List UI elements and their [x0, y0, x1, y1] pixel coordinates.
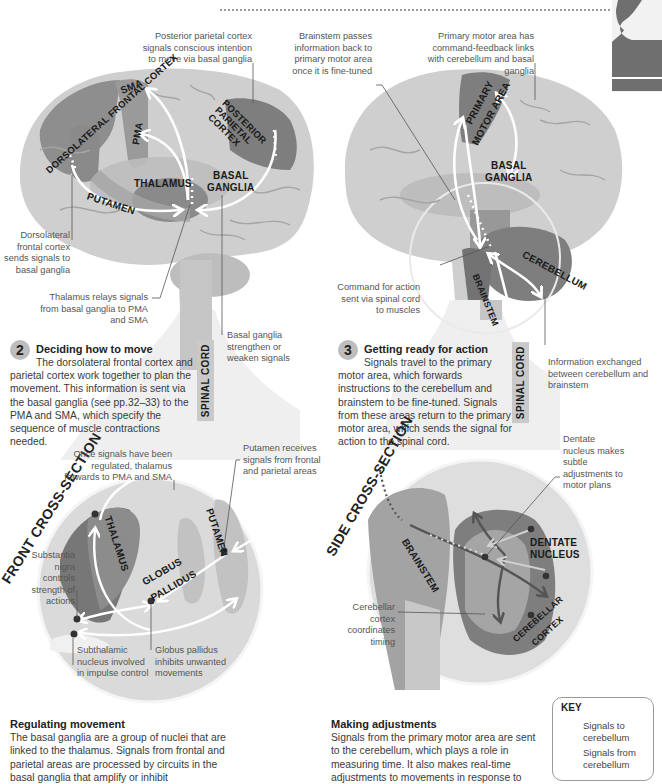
annotation-info-exchanged: Information exchanged between cerebellum… [548, 357, 653, 392]
step-2-number: 2 [10, 340, 30, 360]
label-basal-ganglia-1: BASAL [213, 170, 248, 181]
step-3-block: 3Getting ready for action Signals travel… [338, 340, 516, 448]
label-basal-ganglia-2: GANGLIA [207, 182, 255, 193]
label-dentate-nucleus-2: NUCLEUS [530, 549, 580, 560]
legend-key: KEY Signals to cerebellum Signals from c… [552, 697, 654, 781]
making-adjustments-caption: Making adjustments Signals from the prim… [331, 718, 541, 784]
step-2-body: The dorsolateral frontal cortex and pari… [10, 356, 195, 448]
annotation-once-signals: Once signals have been regulated, thalam… [62, 449, 172, 484]
side-cross-section-illustration [368, 460, 592, 690]
annotation-posterior-parietal: Posterior parietal cortex signals consci… [134, 31, 252, 66]
legend-item-signals-from: Signals from cerebellum [583, 747, 649, 770]
annotation-globus-inhibits: Globus pallidus inhibits unwanted moveme… [155, 645, 227, 680]
label-basal-ganglia-right-1: BASAL [491, 160, 526, 171]
regulating-movement-title: Regulating movement [10, 718, 240, 731]
regulating-movement-body: The basal ganglia are a group of nuclei … [10, 732, 226, 783]
step-3-number: 3 [338, 340, 358, 360]
annotation-subthalamic: Subthalamic nucleus involved in impulse … [77, 645, 152, 680]
annotation-thalamus-relays: Thalamus relays signals from basal gangl… [40, 292, 148, 327]
annotation-brainstem-passes: Brainstem passes information back to pri… [282, 31, 372, 77]
label-basal-ganglia-right-2: GANGLIA [485, 172, 533, 183]
step-2-block: 2Deciding how to move The dorsolateral f… [10, 340, 195, 448]
step-3-title: Getting ready for action [364, 343, 488, 355]
step-2-title: Deciding how to move [36, 343, 153, 355]
label-spinal-cord-left: SPINAL CORD [197, 340, 214, 421]
annotation-basal-strengthen: Basal ganglia strengthen or weaken signa… [227, 330, 297, 365]
label-thalamus: THALAMUS [134, 178, 192, 189]
step-3-body: Signals travel to the primary motor area… [338, 356, 516, 448]
legend-title: KEY [561, 702, 582, 713]
annotation-cerebellar-cortex: Cerebellar cortex coordinates timing [340, 602, 395, 648]
annotation-dentate: Dentate nucleus makes subtle adjustments… [563, 434, 628, 492]
making-adjustments-body: Signals from the primary motor area are … [331, 732, 535, 783]
regulating-movement-caption: Regulating movement The basal ganglia ar… [10, 718, 240, 784]
making-adjustments-title: Making adjustments [331, 718, 541, 731]
annotation-substantia-nigra: Substantia nigra controls strength of ac… [20, 550, 75, 608]
annotation-dorsolateral-sends: Dorsolateral frontal cortex sends signal… [4, 230, 70, 276]
annotation-command-for-action: Command for action sent via spinal cord … [336, 282, 420, 317]
label-dentate-nucleus-1: DENTATE [530, 537, 577, 548]
annotation-primary-motor-links: Primary motor area has command-feedback … [414, 31, 534, 77]
annotation-putamen-receives: Putamen receives signals from frontal an… [243, 443, 328, 478]
legend-item-signals-to: Signals to cerebellum [583, 720, 645, 743]
